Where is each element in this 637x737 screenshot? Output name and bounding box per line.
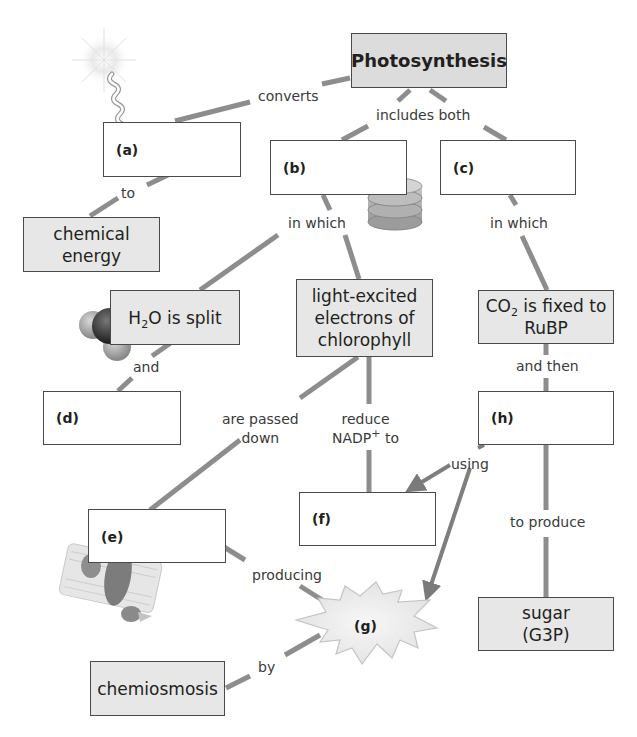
blank-d-label: (d)	[56, 407, 79, 429]
link-are-passed-line1: are passed	[222, 411, 299, 427]
link-and-then: and then	[516, 357, 579, 376]
link-are-passed-line2: down	[241, 430, 279, 446]
link-producing: producing	[252, 566, 322, 585]
node-electrons-line3: chlorophyll	[318, 329, 411, 351]
link-reduce-nadp-text: NADP	[332, 430, 371, 446]
h2o-h: H	[128, 308, 141, 328]
node-electrons-line1: light-excited	[312, 285, 418, 307]
h2o-suffix: O is split	[148, 308, 222, 328]
link-to: to	[121, 184, 135, 203]
node-photosynthesis-label: Photosynthesis	[351, 50, 507, 72]
cropped-header-text	[0, 0, 637, 5]
blank-e[interactable]: (e)	[88, 509, 226, 563]
link-and: and	[133, 358, 159, 377]
blank-f[interactable]: (f)	[299, 492, 436, 546]
blank-d[interactable]: (d)	[43, 391, 181, 445]
blank-g-label: (g)	[354, 618, 377, 634]
node-sugar-g3p: sugar (G3P)	[478, 597, 614, 651]
node-sugar-line2: (G3P)	[522, 624, 570, 646]
co2-suffix: is fixed to	[518, 296, 606, 316]
link-are-passed-down: are passed down	[222, 410, 299, 448]
link-converts: converts	[258, 87, 319, 106]
blank-h-label: (h)	[491, 407, 514, 429]
link-reduce-nadp: reduce NADP+ to	[332, 410, 399, 448]
link-includes-both: includes both	[376, 106, 470, 125]
blank-a-label: (a)	[116, 139, 138, 161]
node-co2-fixed: CO2 is fixed to RuBP	[478, 290, 614, 344]
blank-b[interactable]: (b)	[270, 140, 407, 195]
node-chemical-energy: chemical energy	[23, 217, 160, 272]
node-chemical-energy-line2: energy	[62, 245, 121, 267]
link-in-which-left: in which	[288, 214, 346, 233]
node-light-excited-electrons: light-excited electrons of chlorophyll	[296, 279, 433, 357]
node-photosynthesis: Photosynthesis	[351, 33, 507, 88]
blank-a[interactable]: (a)	[103, 122, 241, 177]
blank-c[interactable]: (c)	[440, 140, 576, 195]
node-chemical-energy-line1: chemical	[53, 223, 129, 245]
link-in-which-right: in which	[490, 214, 548, 233]
node-electrons-line2: electrons of	[314, 307, 414, 329]
link-reduce-line1: reduce	[341, 411, 389, 427]
co2-co: CO	[486, 296, 511, 316]
blank-c-label: (c)	[453, 157, 474, 179]
link-to-produce: to produce	[510, 513, 585, 532]
blank-h[interactable]: (h)	[478, 391, 614, 445]
link-using: using	[451, 455, 489, 474]
blank-b-label: (b)	[283, 157, 306, 179]
node-h2o-split: H2O is split	[110, 290, 240, 345]
blank-e-label: (e)	[101, 526, 123, 548]
node-chemiosmosis: chemiosmosis	[90, 661, 225, 716]
node-chemiosmosis-label: chemiosmosis	[97, 678, 218, 700]
node-sugar-line1: sugar	[522, 602, 570, 624]
link-by: by	[258, 658, 275, 677]
node-co2-line2: RuBP	[524, 317, 568, 339]
co2-subscript: 2	[511, 306, 518, 319]
link-reduce-to: to	[381, 430, 400, 446]
nadp-superscript: +	[371, 427, 380, 440]
node-h2o-split-label: H2O is split	[128, 307, 221, 329]
node-co2-line1: CO2 is fixed to	[486, 295, 607, 317]
blank-f-label: (f)	[312, 508, 331, 530]
